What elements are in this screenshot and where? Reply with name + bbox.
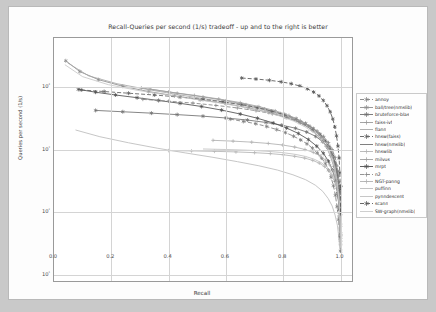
figure-sheet: Recall-Queries per second (1/s) tradeoff… [8, 6, 428, 300]
x-tick-label: 1.0 [335, 253, 343, 259]
legend-marker-icon [359, 119, 374, 126]
series-n2 [141, 98, 342, 237]
legend-item-label: bruteforce-blas [374, 112, 409, 117]
x-tick-label: 0.4 [163, 253, 171, 259]
legend-item[interactable]: hnsw(nmslib) [359, 141, 425, 148]
legend-marker-icon [359, 185, 374, 192]
legend-item[interactable]: n2 [359, 170, 425, 177]
y-tick-label: 10⁴ [33, 82, 50, 89]
y-tick-label: 10¹ [33, 271, 50, 278]
y-gridline [54, 212, 352, 213]
series-mrpt [77, 87, 343, 239]
legend-item-label: milvus [374, 157, 390, 162]
legend-item[interactable]: NGT-panng [359, 178, 425, 185]
legend-item-label: ball/tree(nmslib) [374, 105, 412, 110]
legend-item[interactable]: annoy [359, 96, 425, 103]
legend-marker-icon [359, 141, 374, 148]
series-pynndescent [203, 149, 341, 236]
series-faiss-ivf [148, 87, 342, 243]
legend-marker-icon [359, 193, 374, 200]
plot-svg [54, 38, 352, 281]
legend-item-label: SW-graph(nmslib) [374, 209, 415, 214]
legend-item-label: hnsw(faiss) [374, 134, 401, 139]
legend-marker-icon [359, 208, 374, 215]
legend-marker-icon [359, 126, 374, 133]
chart-legend: annoyball/tree(nmslib)bruteforce-blasfai… [356, 93, 427, 218]
legend-item-label: hnsw(nmslib) [374, 142, 405, 147]
legend-item-label: n2 [374, 172, 381, 177]
x-gridline [341, 38, 342, 281]
legend-item[interactable]: milvus [359, 156, 425, 163]
legend-marker-icon [359, 133, 374, 140]
legend-item[interactable]: bruteforce-blas [359, 111, 425, 118]
legend-item[interactable]: SW-graph(nmslib) [359, 208, 425, 215]
legend-item-label: hnswlib [374, 149, 392, 154]
legend-marker-icon [359, 148, 374, 155]
y-tick-label: 10² [33, 208, 50, 215]
legend-marker-icon [359, 96, 374, 103]
x-tick-label: 0.6 [221, 253, 229, 259]
legend-item-label: flann [374, 127, 386, 132]
legend-item[interactable]: hnswlib [359, 148, 425, 155]
page-background: Recall-Queries per second (1/s) tradeoff… [0, 0, 436, 312]
chart-figure: Recall-Queries per second (1/s) tradeoff… [9, 7, 427, 299]
x-gridline [226, 38, 227, 281]
legend-marker-icon [359, 200, 374, 207]
legend-marker-icon [359, 156, 374, 163]
y-gridline [54, 275, 352, 276]
legend-item[interactable]: hnsw(faiss) [359, 133, 425, 140]
x-gridline [169, 38, 170, 281]
y-axis-label: Queries per second (1/s) [17, 83, 23, 173]
series-hnswlib [167, 149, 343, 247]
legend-item[interactable]: pynndescent [359, 193, 425, 200]
legend-item-label: annoy [374, 97, 389, 102]
x-gridline [283, 38, 284, 281]
legend-item[interactable]: flann [359, 126, 425, 133]
plot-area [53, 37, 353, 282]
legend-item[interactable]: puffinn [359, 185, 425, 192]
legend-marker-icon [359, 171, 374, 178]
legend-item-label: pynndescent [374, 194, 404, 199]
legend-item[interactable]: faiss-ivf [359, 118, 425, 125]
x-axis-label: Recall [53, 290, 351, 296]
legend-item-label: mrpt [374, 164, 386, 169]
series-sw-graph-nmslib- [65, 65, 341, 248]
x-tick-label: 0.8 [278, 253, 286, 259]
legend-marker-icon [359, 178, 374, 185]
chart-title: Recall-Queries per second (1/s) tradeoff… [9, 23, 427, 30]
legend-item-label: puffinn [374, 186, 391, 191]
series-hnsw-faiss- [79, 88, 342, 236]
y-gridline [54, 150, 352, 151]
legend-item-label: scann [374, 201, 388, 206]
legend-marker-icon [359, 104, 374, 111]
legend-item-label: NGT-panng [374, 179, 400, 184]
y-gridline [54, 87, 352, 88]
legend-item[interactable]: mrpt [359, 163, 425, 170]
legend-item-label: faiss-ivf [374, 120, 392, 125]
y-tick-label: 10³ [33, 145, 50, 152]
legend-marker-icon [359, 111, 374, 118]
legend-item[interactable]: scann [359, 200, 425, 207]
series-milvus [140, 86, 343, 246]
legend-item[interactable]: ball/tree(nmslib) [359, 103, 425, 110]
x-tick-label: 0.0 [49, 253, 57, 259]
series-hnsw-nmslib- [94, 108, 342, 227]
x-tick-label: 0.2 [106, 253, 114, 259]
x-gridline [111, 38, 112, 281]
series-annoy [228, 117, 342, 253]
legend-marker-icon [359, 163, 374, 170]
